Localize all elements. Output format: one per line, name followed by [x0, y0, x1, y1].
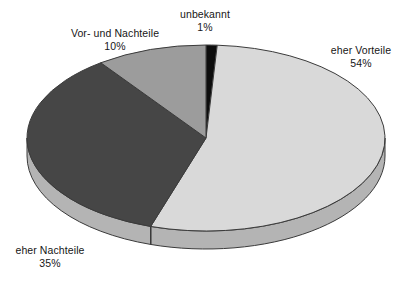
pie-chart: unbekannt 1% Vor- und Nachteile 10% eher…: [0, 0, 407, 290]
pie-geometry: [27, 45, 385, 249]
pie-chart-svg: [0, 0, 407, 290]
